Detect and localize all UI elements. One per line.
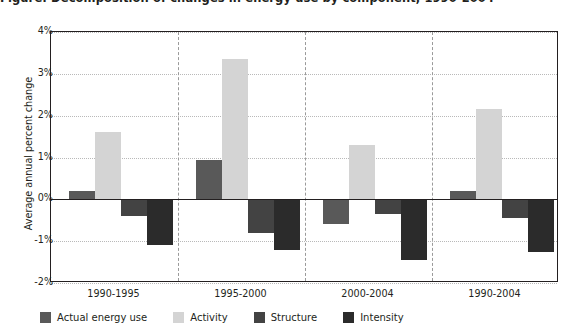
legend-swatch-icon	[173, 312, 184, 323]
x-axis-tick-label: 1990-2004	[431, 288, 558, 299]
bar	[121, 199, 147, 216]
bar	[323, 199, 349, 224]
group-separator	[305, 32, 306, 281]
y-axis-tick-label: 2%	[13, 110, 53, 120]
bar	[274, 199, 300, 249]
gridline	[51, 241, 557, 242]
bar	[349, 145, 375, 199]
y-axis-tick-label: -1%	[13, 235, 53, 245]
legend-swatch-icon	[254, 312, 265, 323]
x-axis-tick-label: 1995-2000	[177, 288, 304, 299]
chart-legend: Actual energy useActivityStructureIntens…	[40, 309, 430, 325]
bar	[196, 160, 222, 200]
x-axis-tick-label: 2000-2004	[304, 288, 431, 299]
bar	[222, 59, 248, 199]
legend-item-label: Structure	[271, 312, 318, 323]
gridline	[51, 283, 557, 284]
bar	[476, 109, 502, 199]
legend-swatch-icon	[40, 312, 51, 323]
y-axis-tick-label: 4%	[13, 26, 53, 36]
legend-item[interactable]: Activity	[173, 312, 227, 323]
bar	[147, 199, 173, 245]
y-axis-tick-label: 0%	[13, 193, 53, 203]
legend-item-label: Actual energy use	[57, 312, 147, 323]
y-axis-tick-label: 3%	[13, 68, 53, 78]
bar	[95, 132, 121, 199]
legend-item[interactable]: Intensity	[343, 312, 404, 323]
legend-item-label: Activity	[190, 312, 227, 323]
bar	[450, 191, 476, 199]
bar	[502, 199, 528, 218]
legend-item[interactable]: Structure	[254, 312, 318, 323]
bar	[528, 199, 554, 251]
bar	[401, 199, 427, 260]
bar	[375, 199, 401, 214]
y-axis-tick-label: -2%	[13, 277, 53, 287]
gridline	[51, 74, 557, 75]
y-axis-tick-label: 1%	[13, 152, 53, 162]
legend-item-label: Intensity	[360, 312, 404, 323]
zero-line	[51, 199, 557, 200]
legend-swatch-icon	[343, 312, 354, 323]
chart-title: Figure: Decomposition of changes in ener…	[0, 0, 570, 5]
group-separator	[432, 32, 433, 281]
gridline	[51, 32, 557, 33]
group-separator	[178, 32, 179, 281]
bar	[69, 191, 95, 199]
legend-item[interactable]: Actual energy use	[40, 312, 147, 323]
bar	[248, 199, 274, 232]
plot-area	[50, 31, 558, 282]
x-axis-tick-label: 1990-1995	[50, 288, 177, 299]
